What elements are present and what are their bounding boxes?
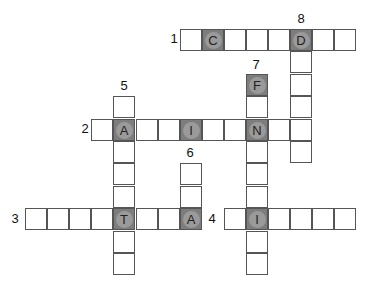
empty-cell[interactable] [25,208,47,230]
empty-cell[interactable] [246,141,268,163]
empty-cell[interactable] [224,119,246,141]
empty-cell[interactable] [290,51,312,73]
empty-cell[interactable] [312,208,334,230]
empty-cell[interactable] [113,141,135,163]
clue-number-8-down: 8 [294,12,308,26]
cell-letter: N [247,120,267,140]
empty-cell[interactable] [136,208,158,230]
empty-cell[interactable] [113,231,135,253]
empty-cell[interactable] [246,231,268,253]
empty-cell[interactable] [47,208,69,230]
empty-cell[interactable] [290,208,312,230]
empty-cell[interactable] [334,208,356,230]
clue-number-2-across: 2 [78,122,92,136]
empty-cell[interactable] [268,208,290,230]
given-letter-cell[interactable]: T [113,208,135,230]
empty-cell[interactable] [180,186,202,208]
empty-cell[interactable] [246,253,268,275]
empty-cell[interactable] [91,208,113,230]
given-letter-cell[interactable]: A [180,208,202,230]
clue-number-1-across: 1 [167,32,181,46]
empty-cell[interactable] [224,208,246,230]
given-letter-cell[interactable]: I [180,119,202,141]
empty-cell[interactable] [290,74,312,96]
cell-letter: I [181,120,201,140]
clue-number-5-down: 5 [117,79,131,93]
empty-cell[interactable] [158,208,180,230]
empty-cell[interactable] [136,119,158,141]
given-letter-cell[interactable]: F [246,74,268,96]
empty-cell[interactable] [113,96,135,118]
clue-number-3-across: 3 [8,212,22,226]
empty-cell[interactable] [224,29,246,51]
empty-cell[interactable] [113,253,135,275]
cell-letter: A [181,209,201,229]
empty-cell[interactable] [290,96,312,118]
empty-cell[interactable] [268,29,290,51]
empty-cell[interactable] [113,163,135,185]
given-letter-cell[interactable]: C [202,29,224,51]
cell-letter: C [203,30,223,50]
cell-letter: A [114,120,134,140]
empty-cell[interactable] [246,163,268,185]
cell-letter: T [114,209,134,229]
empty-cell[interactable] [91,119,113,141]
empty-cell[interactable] [290,119,312,141]
empty-cell[interactable] [246,96,268,118]
clue-number-7-down: 7 [249,58,263,72]
given-letter-cell[interactable]: I [246,208,268,230]
empty-cell[interactable] [268,119,290,141]
empty-cell[interactable] [158,119,180,141]
cell-letter: I [247,209,267,229]
empty-cell[interactable] [113,186,135,208]
empty-cell[interactable] [202,119,224,141]
empty-cell[interactable] [69,208,91,230]
given-letter-cell[interactable]: N [246,119,268,141]
clue-number-6-down: 6 [183,146,197,160]
empty-cell[interactable] [180,29,202,51]
cell-letter: F [247,75,267,95]
empty-cell[interactable] [246,186,268,208]
given-letter-cell[interactable]: A [113,119,135,141]
cell-letter: D [291,30,311,50]
empty-cell[interactable] [312,29,334,51]
given-letter-cell[interactable]: D [290,29,312,51]
clue-number-4-across: 4 [205,212,219,226]
empty-cell[interactable] [290,141,312,163]
empty-cell[interactable] [246,29,268,51]
empty-cell[interactable] [334,29,356,51]
empty-cell[interactable] [180,163,202,185]
